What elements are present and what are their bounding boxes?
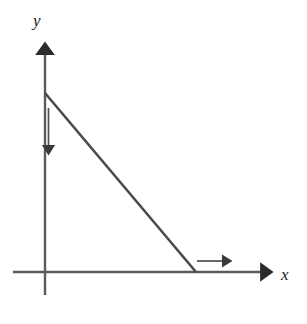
coordinate-plane-diagram [0,0,307,324]
figure-canvas: y x [0,0,307,324]
x-axis-label: x [281,266,289,283]
nullcline-segment [45,93,196,272]
y-axis-label: y [33,12,41,29]
